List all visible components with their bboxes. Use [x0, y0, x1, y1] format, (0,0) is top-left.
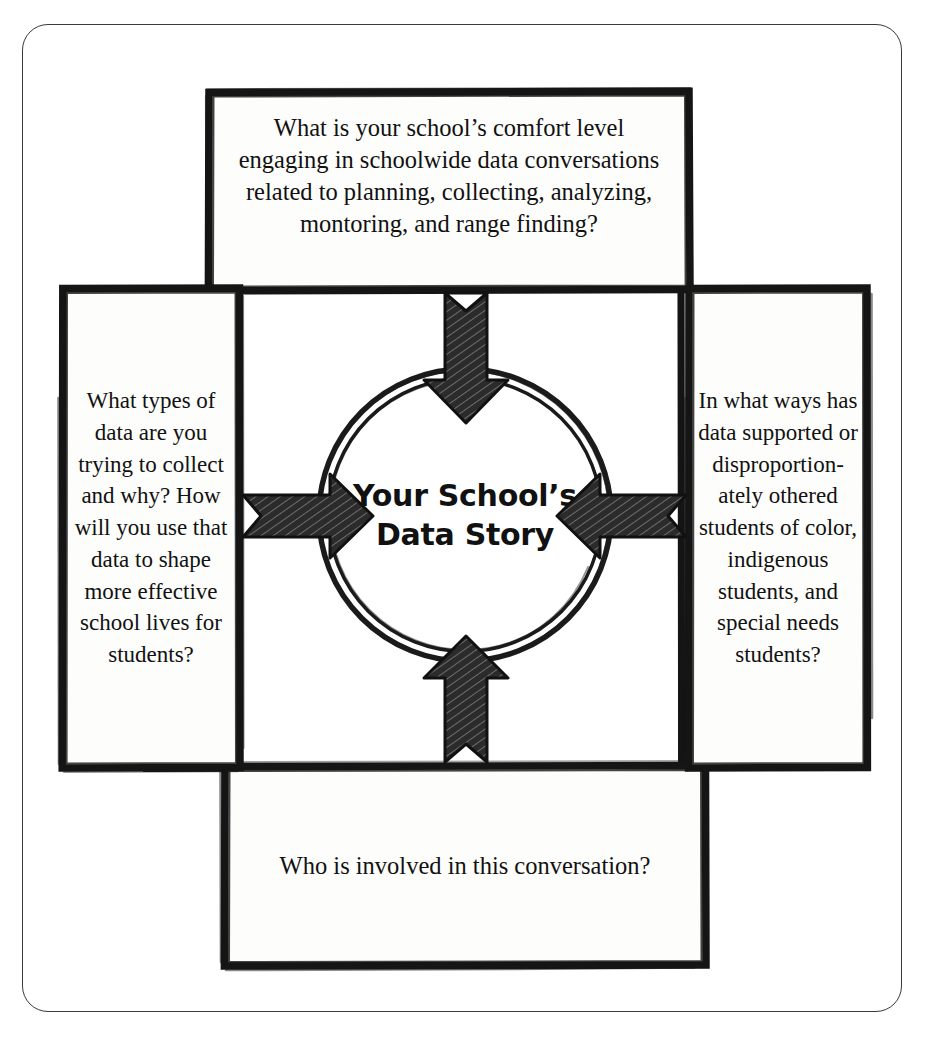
- top-question-text: What is your school’s comfort level enga…: [208, 92, 690, 290]
- bottom-question-text: Who is involved in this conversation?: [224, 766, 706, 966]
- right-question-text: In what ways has data supported or dispr…: [688, 288, 868, 768]
- top-question-box[interactable]: What is your school’s comfort level enga…: [208, 92, 690, 290]
- left-question-box[interactable]: What types of data are you trying to col…: [62, 288, 240, 768]
- bottom-question-box[interactable]: Who is involved in this conversation?: [224, 766, 706, 966]
- right-question-box[interactable]: In what ways has data supported or dispr…: [688, 288, 868, 768]
- diagram-canvas: What is your school’s comfort level enga…: [0, 0, 926, 1039]
- sketch-circle: [312, 362, 618, 668]
- center-circle: Your School’s Data Story: [312, 362, 618, 668]
- left-question-text: What types of data are you trying to col…: [62, 288, 240, 768]
